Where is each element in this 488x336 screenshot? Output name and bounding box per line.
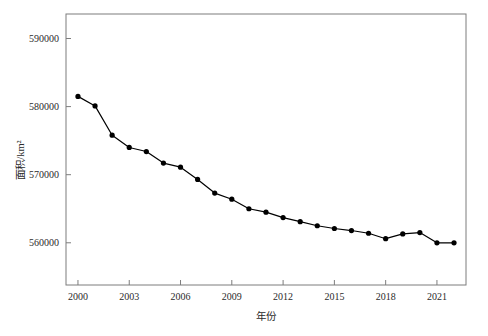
data-point-marker	[161, 161, 166, 166]
data-point-marker	[366, 231, 371, 236]
data-point-marker	[178, 165, 183, 170]
x-tick-label: 2015	[324, 291, 344, 302]
data-point-marker	[280, 215, 285, 220]
data-point-marker	[229, 197, 234, 202]
data-point-marker	[315, 223, 320, 228]
y-axis-ticks: 560000570000580000590000	[29, 33, 71, 248]
data-point-marker	[75, 94, 80, 99]
data-point-marker	[332, 226, 337, 231]
data-point-marker	[110, 133, 115, 138]
y-tick-label: 570000	[29, 169, 59, 180]
x-tick-label: 2003	[119, 291, 139, 302]
data-series	[75, 94, 456, 246]
y-tick-label: 590000	[29, 33, 59, 44]
data-point-marker	[246, 206, 251, 211]
y-tick-label: 560000	[29, 237, 59, 248]
chart-container: 560000570000580000590000 200020032006200…	[0, 0, 488, 336]
x-tick-label: 2012	[273, 291, 293, 302]
x-axis-ticks: 20002003200620092012201520182021	[68, 280, 447, 302]
y-axis-title: 面积/km²	[15, 140, 26, 179]
x-tick-label: 2009	[222, 291, 242, 302]
data-point-marker	[263, 210, 268, 215]
data-point-marker	[434, 240, 439, 245]
data-point-marker	[349, 228, 354, 233]
data-point-marker	[451, 240, 456, 245]
data-point-marker	[298, 219, 303, 224]
data-point-marker	[195, 177, 200, 182]
data-point-marker	[144, 149, 149, 154]
data-point-marker	[417, 230, 422, 235]
x-tick-label: 2000	[68, 291, 88, 302]
axes-frame	[66, 14, 466, 285]
x-axis-title: 年份	[256, 310, 277, 322]
data-point-marker	[127, 145, 132, 150]
data-point-marker	[92, 103, 97, 108]
x-tick-label: 2021	[427, 291, 447, 302]
data-point-marker	[212, 190, 217, 195]
x-tick-label: 2006	[171, 291, 191, 302]
data-point-marker	[400, 231, 405, 236]
plot-frame	[66, 14, 466, 285]
series-polyline	[78, 96, 454, 242]
line-chart: 560000570000580000590000 200020032006200…	[0, 0, 488, 336]
x-tick-label: 2018	[376, 291, 396, 302]
data-point-marker	[383, 236, 388, 241]
y-tick-label: 580000	[29, 101, 59, 112]
